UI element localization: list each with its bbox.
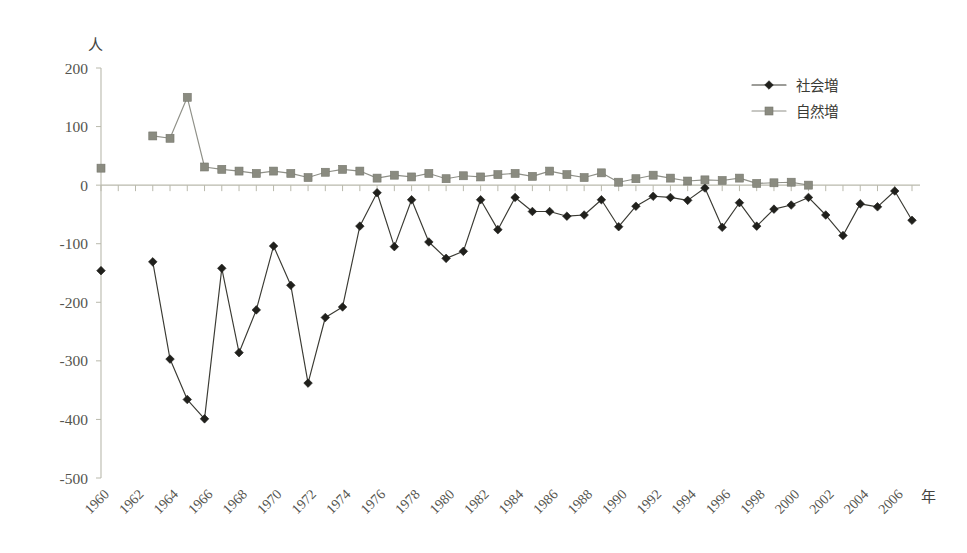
data-point-marker bbox=[149, 132, 157, 140]
data-point-marker bbox=[770, 179, 778, 187]
data-point-marker bbox=[735, 174, 743, 182]
data-point-marker bbox=[373, 174, 381, 182]
data-point-marker bbox=[442, 175, 450, 183]
data-point-marker bbox=[235, 167, 243, 175]
data-point-marker bbox=[477, 173, 485, 181]
data-point-marker bbox=[597, 169, 605, 177]
data-point-marker bbox=[390, 171, 398, 179]
data-point-marker bbox=[632, 175, 640, 183]
data-point-marker bbox=[563, 171, 571, 179]
data-point-marker bbox=[304, 174, 312, 182]
data-point-marker bbox=[494, 171, 502, 179]
data-point-marker bbox=[718, 176, 726, 184]
y-axis-tick-label: -200 bbox=[60, 294, 89, 311]
data-point-marker bbox=[511, 169, 519, 177]
data-point-marker bbox=[546, 167, 554, 175]
data-point-marker bbox=[166, 134, 174, 142]
y-axis-tick-label: -400 bbox=[60, 411, 89, 428]
chart-container: 2001000-100-200-300-400-500 196019621964… bbox=[0, 0, 967, 553]
data-point-marker bbox=[459, 172, 467, 180]
legend-label: 社会増 bbox=[796, 78, 838, 94]
data-point-marker bbox=[97, 164, 105, 172]
data-point-marker bbox=[252, 169, 260, 177]
x-axis-unit-label: 年 bbox=[921, 488, 936, 506]
data-point-marker bbox=[684, 177, 692, 185]
population-change-line-chart: 2001000-100-200-300-400-500 196019621964… bbox=[0, 0, 967, 553]
data-point-marker bbox=[649, 171, 657, 179]
data-point-marker bbox=[287, 169, 295, 177]
data-point-marker bbox=[528, 172, 536, 180]
data-point-marker bbox=[701, 176, 709, 184]
data-point-marker bbox=[321, 168, 329, 176]
data-point-marker bbox=[753, 179, 761, 187]
data-point-marker bbox=[356, 167, 364, 175]
data-point-marker bbox=[201, 163, 209, 171]
y-axis-tick-label: -500 bbox=[60, 470, 89, 487]
data-point-marker bbox=[804, 181, 812, 189]
data-point-marker bbox=[425, 169, 433, 177]
data-point-marker bbox=[218, 165, 226, 173]
data-point-marker bbox=[408, 173, 416, 181]
data-point-marker bbox=[339, 165, 347, 173]
y-axis-tick-label: 200 bbox=[65, 60, 89, 77]
legend-label: 自然増 bbox=[796, 104, 838, 120]
y-axis-unit-label: 人 bbox=[88, 36, 103, 54]
data-point-marker bbox=[270, 167, 278, 175]
y-axis-tick-label: 0 bbox=[80, 177, 88, 194]
data-point-marker bbox=[580, 174, 588, 182]
y-axis-tick-label: -100 bbox=[60, 235, 89, 252]
y-axis-tick-label: -300 bbox=[60, 352, 89, 369]
data-point-marker bbox=[183, 93, 191, 101]
y-axis-tick-label: 100 bbox=[65, 118, 89, 135]
data-point-marker bbox=[765, 107, 773, 115]
data-point-marker bbox=[666, 174, 674, 182]
data-point-marker bbox=[615, 178, 623, 186]
data-point-marker bbox=[787, 178, 795, 186]
